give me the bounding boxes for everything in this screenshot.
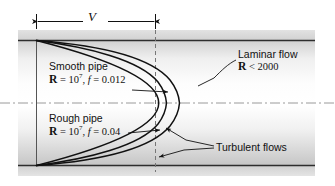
smooth-pipe-equation: R = 107, f = 0.012: [49, 72, 125, 86]
mean-velocity-label: V: [88, 9, 96, 25]
laminar-flow-title: Laminar flow: [238, 48, 298, 60]
rough-pipe-equation: R = 107, f = 0.04: [49, 124, 120, 138]
figure-canvas: [0, 0, 335, 186]
rough-eq-part2: = 0.04: [91, 126, 121, 137]
rough-pipe-title: Rough pipe: [49, 112, 120, 124]
laminar-flow-annotation: Laminar flow R < 2000: [238, 48, 298, 74]
smooth-pipe-title: Smooth pipe: [49, 60, 125, 72]
laminar-flow-condition: R < 2000: [238, 60, 298, 74]
v-dimension-arrow: [37, 14, 156, 29]
pipe-wall-band-top: [18, 30, 315, 41]
smooth-pipe-annotation: Smooth pipe R = 107, f = 0.012: [49, 60, 125, 86]
pipe-wall-band-bottom: [18, 165, 315, 176]
rough-eq-part1: = 10: [57, 126, 79, 137]
laminar-condition-value: < 2000: [246, 61, 278, 72]
pipe-velocity-profile-figure: V Smooth pipe R = 107, f = 0.012 Rough p…: [0, 0, 335, 186]
turbulent-flows-label: Turbulent flows: [216, 141, 287, 153]
smooth-eq-part2: = 0.012: [91, 74, 126, 85]
rough-pipe-annotation: Rough pipe R = 107, f = 0.04: [49, 112, 120, 138]
smooth-eq-part1: = 10: [57, 74, 79, 85]
